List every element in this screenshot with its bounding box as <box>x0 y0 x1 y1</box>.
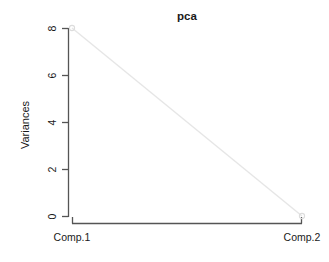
x-tick-label-comp2: Comp.2 <box>284 231 321 243</box>
plot-title: pca <box>177 10 197 22</box>
screeplot-figure: pca 8 6 4 2 0 Variances Comp.1 <box>0 0 329 262</box>
plot-background <box>0 0 329 262</box>
y-tick-label-8: 8 <box>46 25 58 31</box>
x-tick-label-comp1: Comp.1 <box>54 231 91 243</box>
y-tick-label-6: 6 <box>46 72 58 78</box>
y-axis-title: Variances <box>19 100 31 149</box>
plot-canvas: pca 8 6 4 2 0 Variances Comp.1 <box>0 0 329 262</box>
y-tick-label-0: 0 <box>46 213 58 219</box>
y-tick-label-4: 4 <box>46 119 58 125</box>
y-tick-label-2: 2 <box>46 166 58 172</box>
